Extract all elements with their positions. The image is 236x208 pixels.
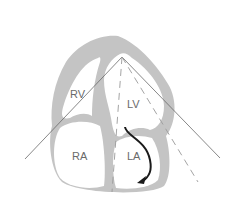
label-la: LA <box>127 150 141 162</box>
label-ra: RA <box>72 150 88 162</box>
heart-four-chamber-diagram: RV LV RA LA <box>0 0 236 208</box>
label-rv: RV <box>70 88 86 100</box>
label-lv: LV <box>127 98 140 110</box>
la-cavity <box>113 136 160 189</box>
